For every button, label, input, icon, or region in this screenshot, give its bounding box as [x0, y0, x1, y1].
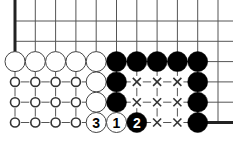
- white-stone: [66, 52, 86, 72]
- black-stone: [188, 52, 208, 72]
- stone-label: 3: [92, 115, 100, 131]
- black-stone: [167, 52, 187, 72]
- white-stone: [86, 52, 106, 72]
- black-stone: [127, 52, 147, 72]
- black-stone: [188, 113, 208, 133]
- go-board: 312: [0, 0, 233, 145]
- black-stone: 2: [127, 113, 147, 133]
- white-stone: [86, 72, 106, 92]
- black-stone: [107, 92, 127, 112]
- black-stone: [188, 72, 208, 92]
- black-stone: [188, 92, 208, 112]
- white-stone: 1: [107, 113, 127, 133]
- stone-label: 1: [113, 115, 121, 131]
- stone-label: 2: [133, 115, 141, 131]
- white-stone: [86, 92, 106, 112]
- white-stone: [25, 52, 45, 72]
- white-stone: [46, 52, 66, 72]
- white-stone: [5, 52, 25, 72]
- black-stone: [107, 72, 127, 92]
- black-stone: [147, 52, 167, 72]
- white-stone: 3: [86, 113, 106, 133]
- black-stone: [107, 52, 127, 72]
